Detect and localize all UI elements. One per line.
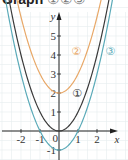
curve-label-2: ②	[71, 45, 81, 58]
x-axis-label: x	[114, 133, 120, 145]
y-axis-arrow-icon	[57, 12, 62, 20]
x-tick-label: -1	[35, 133, 44, 145]
y-axis-label: y	[50, 10, 56, 22]
y-tick-label: 2	[51, 87, 57, 99]
y-tick-label: 4	[51, 49, 57, 61]
origin-label: 0	[53, 132, 59, 144]
y-tick-label: 3	[51, 68, 57, 80]
y-tick-label: 1	[51, 106, 57, 118]
curve-label-1: ①	[72, 87, 82, 100]
y-tick-label: 5	[51, 30, 57, 42]
parabola-chart: -2-112-1123450xy①②③	[0, 0, 128, 160]
x-tick-label: -2	[16, 133, 25, 145]
curve-label-3: ③	[105, 45, 115, 58]
y-tick-label: -1	[47, 144, 56, 156]
x-tick-label: 2	[94, 133, 100, 145]
